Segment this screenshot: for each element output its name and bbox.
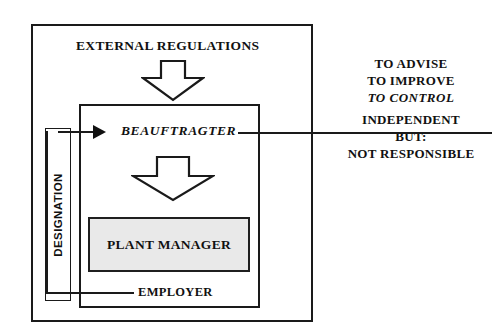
authority-duties-group: TO ADVISE TO IMPROVE TO CONTROL bbox=[341, 55, 481, 106]
status-independent-label: INDEPENDENT bbox=[341, 111, 481, 128]
beauftragter-role-label: BEAUFTRAGTER bbox=[119, 123, 238, 139]
employer-connector-vertical-line bbox=[46, 131, 48, 293]
status-but-label: BUT: bbox=[341, 128, 481, 145]
designation-to-beauftragter-arrow-icon bbox=[93, 125, 106, 139]
status-not-responsible-label: NOT RESPONSIBLE bbox=[341, 145, 481, 162]
designation-channel-box: DESIGNATION bbox=[45, 128, 71, 301]
duty-advise-label: TO ADVISE bbox=[341, 55, 481, 72]
external-regulations-label: EXTERNAL REGULATIONS bbox=[76, 38, 259, 54]
authority-description-block: TO ADVISE TO IMPROVE TO CONTROL INDEPEND… bbox=[341, 55, 481, 162]
authority-status-group: INDEPENDENT BUT: NOT RESPONSIBLE bbox=[341, 111, 481, 162]
diagram-canvas: EXTERNAL REGULATIONS BEAUFTRAGTER DESIGN… bbox=[0, 0, 492, 335]
external-regulations-down-arrow-icon bbox=[141, 60, 205, 102]
duty-improve-label: TO IMPROVE bbox=[341, 72, 481, 89]
plant-manager-box: PLANT MANAGER bbox=[88, 217, 250, 272]
plant-manager-label: PLANT MANAGER bbox=[107, 237, 231, 253]
beauftragter-to-plant-manager-down-arrow-icon bbox=[131, 156, 215, 202]
employer-connector-line bbox=[46, 292, 134, 294]
employer-label: EMPLOYER bbox=[136, 285, 215, 300]
authority-divider-line bbox=[340, 132, 482, 134]
designation-connector-line bbox=[58, 131, 94, 133]
designation-label: DESIGNATION bbox=[52, 173, 64, 256]
duty-control-label: TO CONTROL bbox=[341, 89, 481, 106]
